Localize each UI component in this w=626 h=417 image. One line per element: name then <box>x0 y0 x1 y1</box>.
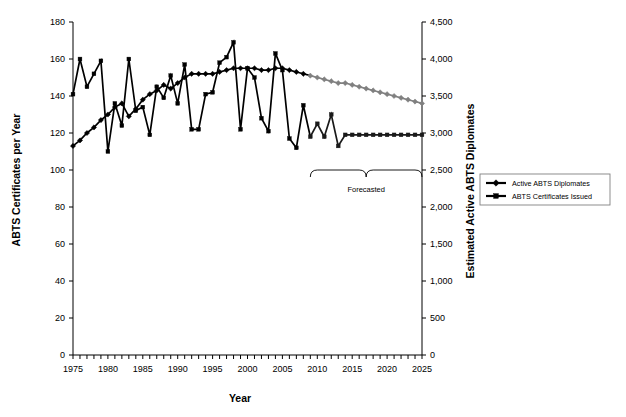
x-tick-label: 2010 <box>307 364 327 374</box>
x-tick-label: 1980 <box>98 364 118 374</box>
data-point-marker <box>259 68 264 73</box>
data-point-marker <box>218 61 222 65</box>
x-tick-label: 2015 <box>342 364 362 374</box>
y-tick-label-right: 3,500 <box>430 91 453 101</box>
y-tick-label-left: 0 <box>60 350 65 360</box>
y-tick-label-right: 1,000 <box>430 276 453 286</box>
data-point-marker <box>399 133 403 137</box>
legend-group: Active ABTS DiplomatesABTS Certificates … <box>480 174 610 205</box>
data-point-marker <box>343 133 347 137</box>
data-point-marker <box>141 105 145 109</box>
data-point-marker <box>371 88 376 93</box>
data-point-marker <box>392 133 396 137</box>
x-tick-label: 1985 <box>133 364 153 374</box>
y-tick-label-left: 140 <box>50 91 65 101</box>
data-point-marker <box>253 76 257 80</box>
data-point-marker <box>420 133 424 137</box>
data-point-marker <box>225 55 229 59</box>
data-point-marker <box>301 71 306 76</box>
data-point-marker <box>162 96 166 100</box>
data-point-marker <box>204 92 208 96</box>
data-point-marker <box>197 127 201 131</box>
data-point-marker <box>267 129 271 133</box>
y-tick-label-right: 4,000 <box>430 54 453 64</box>
y-axis-title-left: ABTS Certificates per Year <box>6 84 26 284</box>
y-axis-title-right: Estimated Active ABTS Diplomates <box>460 80 480 300</box>
data-point-marker <box>494 194 499 199</box>
y-tick-label-left: 20 <box>55 313 65 323</box>
y-tick-label-left: 100 <box>50 165 65 175</box>
data-point-marker <box>322 77 327 82</box>
data-point-marker <box>260 116 264 120</box>
data-point-marker <box>196 71 201 76</box>
y-tick-label-left: 40 <box>55 276 65 286</box>
y-tick-label-right: 0 <box>430 350 435 360</box>
data-point-marker <box>232 40 236 44</box>
data-point-marker <box>239 127 243 131</box>
data-point-marker <box>315 75 320 80</box>
data-point-marker <box>357 84 362 89</box>
data-point-marker <box>322 135 326 139</box>
data-point-marker <box>106 150 110 154</box>
data-point-marker <box>385 92 390 97</box>
legend-item-label: ABTS Certificates Issued <box>512 192 592 201</box>
data-point-marker <box>308 135 312 139</box>
series-line-forecast <box>310 115 422 146</box>
forecast-brace <box>310 170 422 177</box>
x-axis-title: Year <box>0 392 480 404</box>
series-abts-certificates-issued <box>71 40 424 153</box>
data-point-marker <box>176 102 180 106</box>
data-point-marker <box>294 69 299 74</box>
data-point-marker <box>294 146 298 150</box>
data-point-marker <box>169 74 173 78</box>
forecast-brace-label: Forecasted <box>347 185 385 194</box>
chart-figure: 02040608010012014016018005001,0001,5002,… <box>0 0 626 417</box>
data-point-marker <box>287 68 292 73</box>
x-tick-label: 2000 <box>237 364 257 374</box>
series-line-historical <box>73 42 310 151</box>
data-point-marker <box>127 57 131 61</box>
data-point-marker <box>385 133 389 137</box>
data-point-marker <box>148 133 152 137</box>
data-point-marker <box>391 93 396 98</box>
y-tick-label-right: 2,500 <box>430 165 453 175</box>
data-point-marker <box>343 80 348 85</box>
data-point-marker <box>99 59 103 63</box>
data-point-marker <box>301 103 305 107</box>
data-point-marker <box>71 92 75 96</box>
legend-item-label: Active ABTS Diplomates <box>512 179 590 188</box>
y-tick-label-right: 1,500 <box>430 239 453 249</box>
series-line-historical <box>73 68 310 146</box>
data-point-marker <box>92 72 96 76</box>
data-point-marker <box>406 133 410 137</box>
data-point-marker <box>287 137 291 141</box>
data-point-marker <box>274 52 278 56</box>
y-tick-label-left: 80 <box>55 202 65 212</box>
data-point-marker <box>252 66 257 71</box>
data-point-marker <box>238 66 243 71</box>
data-point-marker <box>357 133 361 137</box>
data-point-marker <box>183 63 187 67</box>
data-point-marker <box>336 144 340 148</box>
data-point-marker <box>336 80 341 85</box>
annotations-group: Forecasted <box>310 170 422 194</box>
data-point-marker <box>315 122 319 126</box>
y-tick-label-right: 2,000 <box>430 202 453 212</box>
y-tick-label-left: 180 <box>50 17 65 27</box>
x-tick-label: 1975 <box>63 364 83 374</box>
data-point-marker <box>371 133 375 137</box>
data-point-marker <box>350 133 354 137</box>
y-tick-label-right: 4,500 <box>430 17 453 27</box>
data-point-marker <box>364 133 368 137</box>
y-tick-label-right: 3,000 <box>430 128 453 138</box>
data-point-marker <box>224 68 229 73</box>
x-tick-label: 2025 <box>412 364 432 374</box>
y-tick-label-left: 60 <box>55 239 65 249</box>
data-point-marker <box>85 85 89 89</box>
series-group <box>70 40 424 153</box>
data-point-marker <box>364 86 369 91</box>
x-tick-label: 2005 <box>272 364 292 374</box>
y-tick-label-left: 120 <box>50 128 65 138</box>
data-point-marker <box>350 82 355 87</box>
data-point-marker <box>203 71 208 76</box>
